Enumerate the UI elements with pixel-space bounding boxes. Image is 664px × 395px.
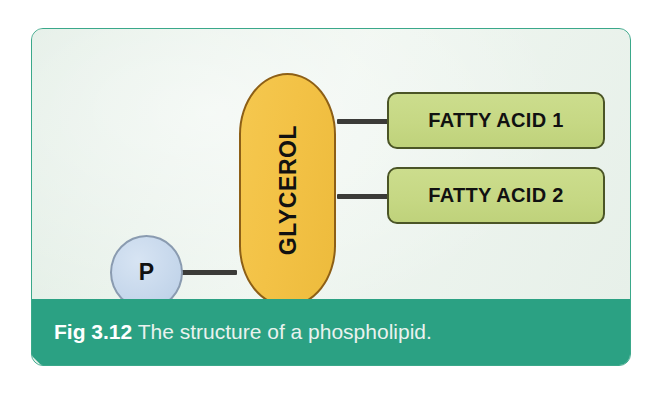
diagram-area: P GLYCEROL FATTY ACID 1 FATTY ACID 2 bbox=[32, 29, 630, 301]
glycerol-backbone-node: GLYCEROL bbox=[239, 73, 336, 307]
figure-description-label: The structure of a phospholipid. bbox=[132, 320, 432, 343]
figure-caption-bar: Fig 3.12 The structure of a phospholipid… bbox=[32, 299, 630, 365]
figure-caption: Fig 3.12 The structure of a phospholipid… bbox=[54, 320, 432, 344]
phosphate-group-label: P bbox=[139, 259, 154, 286]
figure-number-label: Fig 3.12 bbox=[54, 320, 132, 343]
bond-phosphate-glycerol-connector bbox=[181, 270, 237, 275]
fatty-acid-1-label: FATTY ACID 1 bbox=[428, 109, 563, 132]
figure-card: P GLYCEROL FATTY ACID 1 FATTY ACID 2 Fig… bbox=[31, 28, 631, 366]
glycerol-backbone-label: GLYCEROL bbox=[274, 125, 301, 255]
bond-glycerol-fatty-acid-2-connector bbox=[337, 194, 389, 199]
phosphate-group-node: P bbox=[110, 235, 183, 310]
fatty-acid-2-label: FATTY ACID 2 bbox=[428, 184, 563, 207]
bond-glycerol-fatty-acid-1-connector bbox=[337, 119, 389, 124]
fatty-acid-2-node: FATTY ACID 2 bbox=[387, 167, 605, 224]
fatty-acid-1-node: FATTY ACID 1 bbox=[387, 92, 605, 149]
